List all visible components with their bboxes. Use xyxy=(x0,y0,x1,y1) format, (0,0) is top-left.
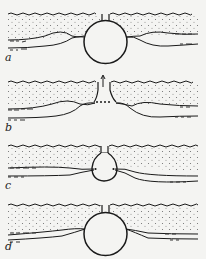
panel-label-c: c xyxy=(5,180,11,191)
panel-label-d: d xyxy=(5,241,12,252)
panel-label-b: b xyxy=(5,122,12,133)
panel-b xyxy=(8,75,198,120)
panel-label-a: a xyxy=(5,52,12,63)
panel-a xyxy=(8,13,198,64)
diagram-canvas xyxy=(0,0,206,259)
panel-d xyxy=(8,204,198,256)
panel-c xyxy=(8,145,198,182)
figure: a b c d xyxy=(0,0,206,259)
